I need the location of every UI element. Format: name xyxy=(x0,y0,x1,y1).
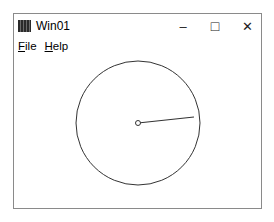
app-window: Win01 – □ ✕ File Help xyxy=(13,13,262,209)
app-icon xyxy=(18,20,31,32)
clock-hand xyxy=(138,117,194,123)
minimize-button[interactable]: – xyxy=(168,14,198,38)
menu-file[interactable]: File xyxy=(14,40,41,52)
client-area[interactable] xyxy=(14,54,261,208)
close-button[interactable]: ✕ xyxy=(232,14,262,38)
hub-dot xyxy=(136,121,141,126)
menu-help[interactable]: Help xyxy=(41,40,73,52)
menu-bar: File Help xyxy=(14,38,261,54)
title-bar[interactable]: Win01 – □ ✕ xyxy=(14,14,261,38)
drawing-canvas xyxy=(14,54,261,208)
maximize-button[interactable]: □ xyxy=(200,14,230,38)
window-title: Win01 xyxy=(36,19,70,33)
